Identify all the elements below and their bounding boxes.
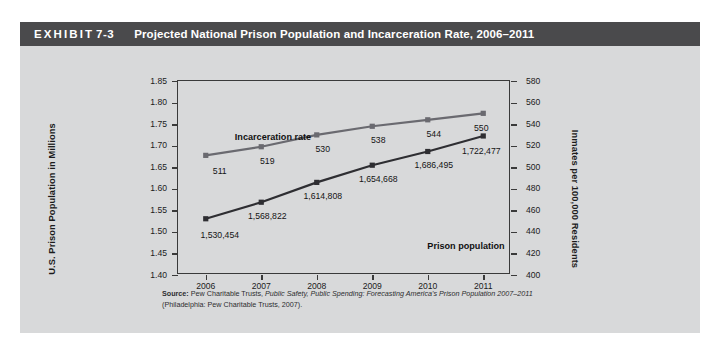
y-axis-right-tick-label: 420 bbox=[526, 248, 540, 258]
y-axis-left-tick-label: 1.45 bbox=[150, 248, 167, 258]
x-axis-tick-mark bbox=[372, 275, 373, 280]
y-axis-left-tick-label: 1.65 bbox=[150, 162, 167, 172]
series-marker bbox=[259, 144, 264, 149]
x-axis-tick-mark bbox=[206, 275, 207, 280]
y-axis-right-tick-label: 520 bbox=[526, 140, 540, 150]
data-point-label: 1,686,495 bbox=[414, 160, 453, 170]
x-axis-tick-mark bbox=[483, 275, 484, 280]
y-axis-left-tick-label: 1.70 bbox=[150, 140, 167, 150]
y-axis-right-tick-label: 560 bbox=[526, 97, 540, 107]
data-point-label: 544 bbox=[427, 129, 442, 139]
y-axis-right-tick-mark bbox=[511, 103, 517, 104]
data-point-label: 1,614,808 bbox=[303, 191, 342, 201]
plot-area: 1.401.451.501.551.601.651.701.751.801.85… bbox=[177, 80, 510, 274]
data-point-label: 1,530,454 bbox=[200, 230, 239, 240]
x-axis-tick-mark bbox=[317, 275, 318, 280]
data-point-label: 550 bbox=[474, 123, 489, 133]
source-citation-italic: Public Safety, Public Spending: Forecast… bbox=[265, 289, 533, 298]
y-axis-left-tick-label: 1.55 bbox=[150, 205, 167, 215]
series-marker bbox=[259, 200, 264, 205]
exhibit-figure: EXHIBIT 7-3 Projected National Prison Po… bbox=[20, 22, 700, 333]
series-marker bbox=[314, 132, 319, 137]
y-axis-right-tick-label: 500 bbox=[526, 162, 540, 172]
series-label-prison-population: Prison population bbox=[427, 241, 504, 251]
y-axis-right-tick-label: 440 bbox=[526, 226, 540, 236]
data-point-label: 1,654,668 bbox=[359, 174, 398, 184]
series-marker bbox=[203, 153, 208, 158]
data-point-label: 1,722,477 bbox=[462, 146, 501, 156]
series-marker bbox=[370, 124, 375, 129]
source-note: Source: Pew Charitable Trusts, Public Sa… bbox=[162, 288, 602, 310]
data-point-label: 1,568,822 bbox=[248, 211, 287, 221]
y-axis-left-tick-label: 1.80 bbox=[150, 97, 167, 107]
y-axis-right-tick-label: 580 bbox=[526, 76, 540, 86]
source-text-2: (Philadelphia: Pew Charitable Trusts, 20… bbox=[162, 300, 302, 309]
y-axis-left-tick-mark bbox=[172, 275, 178, 276]
y-axis-left-title: U.S. Prison Population in Millions bbox=[47, 114, 57, 284]
exhibit-title: Projected National Prison Population and… bbox=[134, 28, 534, 40]
y-axis-right-tick-label: 460 bbox=[526, 205, 540, 215]
y-axis-right-title: Inmates per 100,000 Residents bbox=[570, 110, 580, 288]
series-marker bbox=[481, 133, 486, 138]
x-axis-tick-mark bbox=[261, 275, 262, 280]
data-point-label: 538 bbox=[371, 135, 386, 145]
y-axis-left-tick-label: 1.75 bbox=[150, 119, 167, 129]
y-axis-right-tick-label: 480 bbox=[526, 183, 540, 193]
series-marker bbox=[203, 216, 208, 221]
y-axis-right-tick-mark bbox=[511, 232, 517, 233]
data-point-label: 530 bbox=[316, 144, 331, 154]
exhibit-header-band: EXHIBIT 7-3 Projected National Prison Po… bbox=[20, 22, 700, 46]
x-axis-tick-mark bbox=[428, 275, 429, 280]
y-axis-right-tick-mark bbox=[511, 189, 517, 190]
y-axis-left-tick-label: 1.40 bbox=[150, 270, 167, 280]
y-axis-right-tick-mark bbox=[511, 167, 517, 168]
series-marker bbox=[481, 111, 486, 116]
y-axis-left-tick-label: 1.60 bbox=[150, 183, 167, 193]
source-prefix: Source: bbox=[162, 289, 189, 298]
y-axis-right-tick-mark bbox=[511, 253, 517, 254]
exhibit-number: 7-3 bbox=[96, 28, 114, 40]
data-point-label: 519 bbox=[260, 156, 275, 166]
series-marker bbox=[370, 163, 375, 168]
y-axis-right-tick-mark bbox=[511, 275, 517, 276]
y-axis-right-tick-mark bbox=[511, 124, 517, 125]
y-axis-left-tick-label: 1.50 bbox=[150, 226, 167, 236]
series-marker bbox=[314, 180, 319, 185]
source-text-1: Pew Charitable Trusts, bbox=[189, 289, 265, 298]
y-axis-right-tick-mark bbox=[511, 210, 517, 211]
y-axis-right-tick-mark bbox=[511, 146, 517, 147]
series-marker bbox=[425, 149, 430, 154]
series-marker bbox=[425, 117, 430, 122]
y-axis-right-tick-mark bbox=[511, 81, 517, 82]
y-axis-right-tick-label: 540 bbox=[526, 119, 540, 129]
series-label-incarceration-rate: Incarceration rate bbox=[235, 132, 311, 142]
data-point-label: 511 bbox=[213, 166, 227, 176]
y-axis-right-tick-label: 400 bbox=[526, 270, 540, 280]
y-axis-left-tick-label: 1.85 bbox=[150, 76, 167, 86]
exhibit-label: EXHIBIT bbox=[34, 28, 94, 40]
